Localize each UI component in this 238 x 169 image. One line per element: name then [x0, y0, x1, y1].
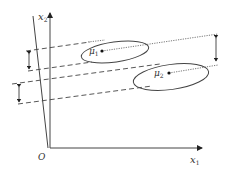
mean-2-label: μ2 — [154, 68, 164, 79]
dashed-projection-lines — [12, 42, 160, 104]
origin-label: O — [38, 152, 46, 162]
mean-2-point — [167, 71, 170, 74]
x1-axis-label: x1 — [190, 154, 199, 166]
projection-line — [33, 16, 48, 148]
cluster-2-ellipse — [132, 59, 211, 94]
dotted-mean-lines — [88, 34, 218, 73]
mean-1-label: μ1 — [89, 46, 99, 57]
x2-axis-label: x2 — [38, 11, 48, 23]
lda-projection-diagram: x2 x1 O μ1 μ2 — [0, 0, 238, 169]
mean-1-point — [100, 49, 103, 52]
